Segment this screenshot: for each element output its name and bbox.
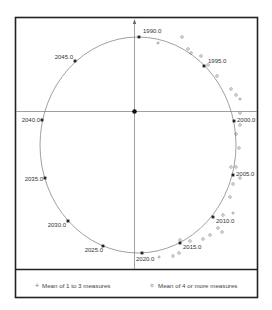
year-point-icon bbox=[67, 220, 70, 223]
year-label: 2000.0 bbox=[237, 117, 256, 123]
year-label: 2020.0 bbox=[136, 256, 155, 262]
year-point-icon bbox=[74, 60, 77, 63]
year-point-icon bbox=[179, 242, 182, 245]
plus-marker-icon: + bbox=[35, 282, 39, 289]
year-marker: 2000.0 bbox=[233, 117, 256, 123]
polar-motion-chart: 1990.01995.02000.02005.02010.02015.02020… bbox=[0, 0, 272, 310]
year-point-icon bbox=[138, 36, 141, 39]
legend-label: Mean of 1 to 3 measures bbox=[42, 282, 110, 289]
year-label: 1990.0 bbox=[143, 28, 162, 34]
origin-dot bbox=[132, 109, 137, 114]
year-label: 2010.0 bbox=[216, 218, 235, 224]
year-label: 2005.0 bbox=[236, 171, 255, 177]
year-point-icon bbox=[203, 65, 206, 68]
legend-label: Mean of 4 or more measures bbox=[158, 282, 237, 289]
year-point-icon bbox=[232, 174, 235, 177]
year-point-icon bbox=[44, 177, 47, 180]
year-point-icon bbox=[233, 120, 236, 123]
year-label: 2025.0 bbox=[85, 247, 104, 253]
year-label: 2040.0 bbox=[22, 117, 41, 123]
year-point-icon bbox=[41, 119, 44, 122]
year-label: 2030.0 bbox=[48, 222, 67, 228]
year-label: 2035.0 bbox=[25, 176, 44, 182]
year-point-icon bbox=[141, 252, 144, 255]
legend-item-plus: + Mean of 1 to 3 measures bbox=[35, 282, 110, 289]
year-label: 2045.0 bbox=[55, 54, 74, 60]
year-label: 1995.0 bbox=[208, 58, 227, 64]
year-point-icon bbox=[212, 216, 215, 219]
year-label: 2015.0 bbox=[183, 244, 202, 250]
year-marker: 2005.0 bbox=[232, 171, 255, 177]
legend-item-circle: Mean of 4 or more measures bbox=[151, 282, 238, 289]
